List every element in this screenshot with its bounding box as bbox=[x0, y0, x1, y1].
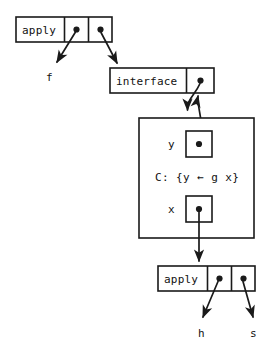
top-apply-slot1-pointer-dot bbox=[73, 26, 79, 32]
interface-node: interface bbox=[110, 68, 214, 93]
top-apply-label: apply bbox=[22, 24, 56, 37]
bottom-apply-slot2-pointer-dot bbox=[240, 275, 246, 281]
top-apply-slot2-pointer-dot bbox=[97, 26, 103, 32]
bottom-apply-label: apply bbox=[164, 273, 198, 286]
binding-y-label: y bbox=[168, 138, 175, 151]
top-apply-node: apply bbox=[16, 17, 112, 42]
closure-body-text: C: {y ← g x} bbox=[155, 171, 239, 184]
bottom-apply-node: apply bbox=[158, 266, 255, 291]
terminal-f-label: f bbox=[46, 71, 53, 84]
bottom-apply-slot1-pointer-dot bbox=[216, 275, 222, 281]
interface-label: interface bbox=[116, 75, 177, 88]
terminal-h-label: h bbox=[198, 327, 205, 340]
interface-slot1-pointer-dot bbox=[197, 77, 203, 83]
terminal-s-label: s bbox=[250, 327, 257, 340]
diagram-canvas: apply f interface y C: {y ← g bbox=[0, 0, 277, 351]
binding-y-pointer-dot bbox=[196, 141, 202, 147]
environment-frame: y C: {y ← g x} x bbox=[139, 118, 254, 238]
binding-x-label: x bbox=[168, 203, 175, 216]
diagram-svg: apply f interface y C: {y ← g bbox=[0, 0, 277, 351]
